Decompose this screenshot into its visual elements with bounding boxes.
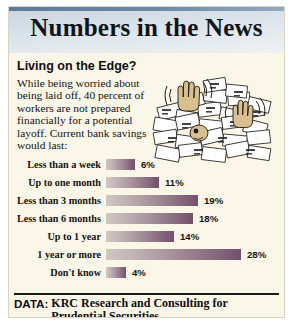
chart-bar	[106, 231, 174, 242]
infographic-card: Numbers in the News Living on the Edge? …	[9, 7, 284, 317]
chart-row-label: Up to 1 year	[9, 230, 101, 243]
data-source-line: DATA:KRC Research and Consulting for Pru…	[14, 297, 280, 317]
chart-row-label: Less than a week	[9, 158, 101, 171]
chart-bar	[106, 177, 159, 188]
header-top-stripe	[9, 7, 284, 11]
chart-bar	[106, 195, 198, 206]
chart-bar	[106, 159, 135, 170]
chart-row: Up to one month 11%	[9, 177, 284, 190]
chart-bar	[106, 249, 241, 260]
chart-row-value: 11%	[165, 176, 184, 189]
chart-row-value: 18%	[199, 212, 218, 225]
chart-row: Less than 3 months 19%	[9, 195, 284, 208]
article-deck: While being worried about being laid off…	[17, 77, 157, 151]
header-band: Numbers in the News	[9, 7, 284, 53]
chart-row-value: 28%	[247, 248, 266, 261]
chart-row-value: 19%	[204, 194, 223, 207]
chart-row-label: 1 year or more	[9, 248, 101, 261]
person-buried-in-bills-icon	[152, 61, 284, 167]
chart-row-label: Don't know	[9, 266, 101, 279]
article-subhead: Living on the Edge?	[17, 59, 136, 73]
chart-row-label: Less than 3 months	[9, 194, 101, 207]
savings-duration-bar-chart: Less than a week 6% Up to one month 11% …	[9, 159, 284, 287]
footer-divider	[14, 293, 279, 295]
page-title: Numbers in the News	[9, 14, 284, 42]
chart-row: Don't know 4%	[9, 267, 284, 280]
chart-row: Less than a week 6%	[9, 159, 284, 172]
chart-row-value: 14%	[180, 230, 199, 243]
chart-bar	[106, 267, 126, 278]
chart-row-label: Up to one month	[9, 176, 101, 189]
chart-row-value: 4%	[132, 266, 146, 279]
chart-row: Up to 1 year 14%	[9, 231, 284, 244]
data-source-text: KRC Research and Consulting for Prudenti…	[51, 297, 259, 317]
chart-bar	[106, 213, 193, 224]
data-source-tag: DATA:	[14, 297, 48, 310]
chart-row-label: Less than 6 months	[9, 212, 101, 225]
chart-row: 1 year or more 28%	[9, 249, 284, 262]
infographic-root: Numbers in the News Living on the Edge? …	[0, 0, 292, 323]
body-area: Living on the Edge? While being worried …	[9, 53, 284, 317]
chart-row: Less than 6 months 18%	[9, 213, 284, 226]
chart-row-value: 6%	[141, 158, 155, 171]
